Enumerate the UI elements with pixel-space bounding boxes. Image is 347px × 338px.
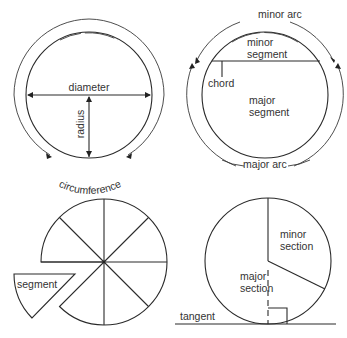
radius-angled [268, 261, 325, 289]
minor-section-label-2: section [280, 240, 313, 252]
radius-label: radius [74, 110, 86, 139]
major-segment-label-1: major [249, 94, 276, 106]
major-arc-bottom-right [288, 160, 310, 166]
minor-arc-left [196, 22, 240, 62]
major-segment-label-2: segment [249, 106, 289, 118]
center-point [103, 261, 106, 264]
major-arc-right [294, 66, 343, 166]
circumference-label: circumference [57, 177, 122, 196]
arrowhead-icon [145, 92, 151, 98]
tangent-label: tangent [180, 310, 215, 322]
segment-label: segment [17, 278, 57, 290]
arrowhead-icon [86, 151, 92, 157]
figure-circle-parts: diameter radius circumference [14, 19, 164, 196]
minor-arc-label: minor arc [258, 8, 302, 20]
minor-arc-right [290, 22, 334, 62]
sector-divider [104, 218, 149, 263]
chord-label: chord [208, 77, 234, 89]
figure-sectors: segment [14, 199, 167, 325]
minor-segment-label-2: segment [247, 48, 287, 60]
arrowhead-icon [86, 96, 92, 102]
arrowhead-icon [335, 63, 341, 69]
figure-arcs-segments: chord minor arc minor segment major segm… [187, 8, 344, 170]
major-section-label-2: section [240, 282, 273, 294]
major-arc-label: major arc [243, 158, 287, 170]
major-section-label-1: major [240, 270, 267, 282]
arrowhead-icon [189, 63, 195, 69]
arrowhead-icon [330, 57, 335, 63]
arrowhead-icon [27, 92, 33, 98]
diameter-label: diameter [69, 81, 110, 93]
minor-segment-label-1: minor [247, 36, 274, 48]
circle-terminology-diagram: diameter radius circumference chord mino… [0, 0, 347, 338]
inner-arc-marks [60, 33, 118, 40]
figure-sections-tangent: tangent minor section major section [175, 198, 336, 324]
minor-section-label-1: minor [280, 228, 307, 240]
